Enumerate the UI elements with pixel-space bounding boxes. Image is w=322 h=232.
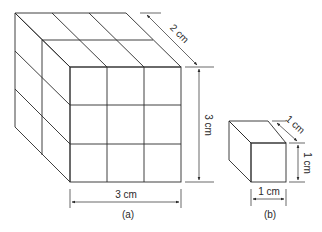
unit-cube-top-face	[229, 121, 286, 143]
cuboid-a	[15, 13, 181, 182]
dimension-a-height: 3 cm	[185, 67, 214, 182]
label-b-height: 1 cm	[302, 152, 313, 174]
cuboid-a-front-face	[70, 67, 181, 182]
label-a-width: 3 cm	[115, 189, 137, 200]
label-a-depth: 2 cm	[168, 22, 191, 45]
diagram-canvas: 2 cm 3 cm 3 cm (a) 1 cm 1 cm 1 c	[0, 0, 322, 232]
dimension-b-depth: 1 cm	[272, 113, 307, 141]
unit-cube-front-face	[251, 143, 286, 182]
caption-b: (b)	[264, 209, 276, 220]
caption-a: (a)	[122, 209, 134, 220]
label-b-width: 1 cm	[258, 186, 280, 197]
label-a-height: 3 cm	[203, 114, 214, 136]
unit-cube-left-face	[229, 121, 251, 182]
dimension-a-width: 3 cm	[70, 189, 181, 208]
dimension-b-height: 1 cm	[289, 143, 313, 182]
dimension-b-width: 1 cm	[251, 186, 286, 206]
dimension-a-depth: 2 cm	[140, 13, 197, 65]
unit-cube-b	[229, 121, 286, 182]
